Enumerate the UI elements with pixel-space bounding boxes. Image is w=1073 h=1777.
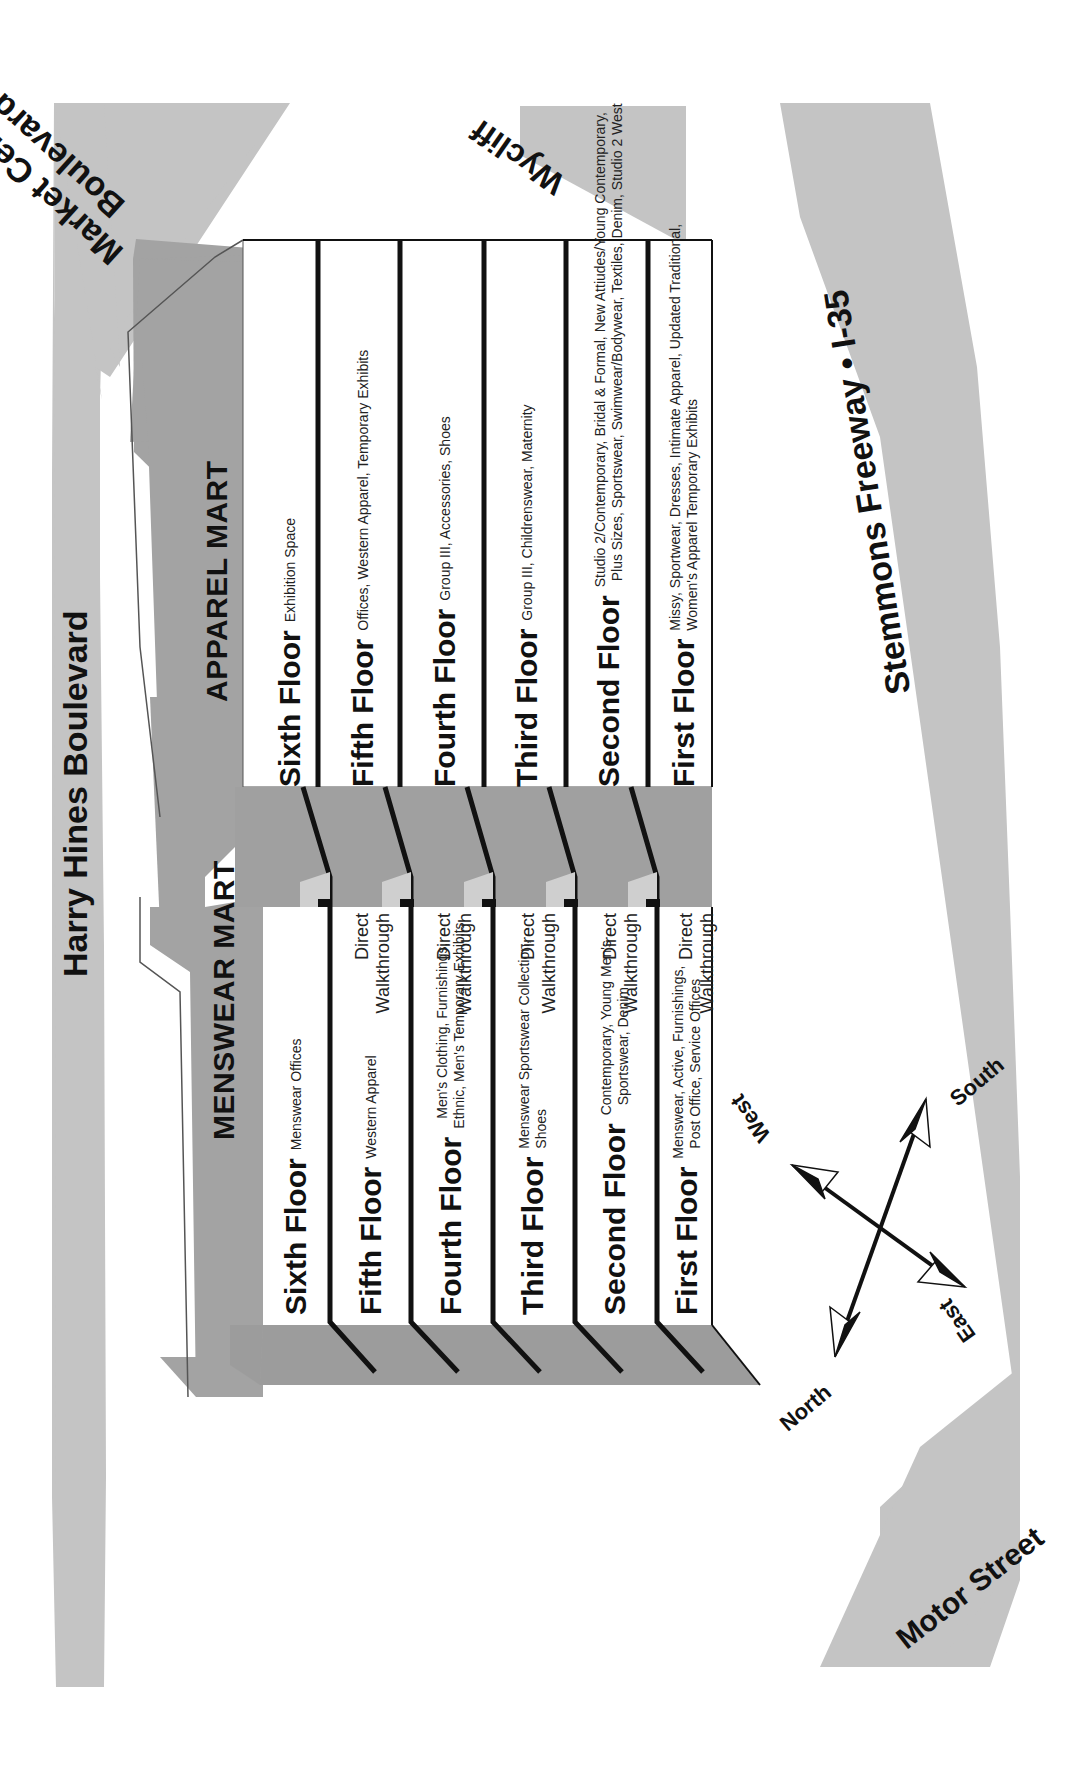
floor-name: First Floor — [670, 1167, 704, 1315]
menswear-floor-6[interactable]: Sixth Floor Menswear Offices — [268, 1039, 324, 1315]
floor-desc-line: Women's Apparel Temporary Exhibits — [684, 224, 701, 631]
walkthrough-label-1: Direct Walkthrough — [676, 913, 718, 1017]
floor-desc: Group III, Accessories, Shoes — [437, 416, 454, 600]
walkthrough-label-4: Direct Walkthrough — [434, 913, 476, 1017]
floor-name: Fifth Floor — [354, 1167, 388, 1315]
floor-desc: Group III, Childrenswear, Maternity — [519, 404, 536, 620]
floor-name: Fourth Floor — [428, 609, 462, 787]
walkthrough-label-5: Direct Walkthrough — [352, 913, 394, 1017]
walkthrough-line1: Direct — [676, 913, 697, 1017]
road-label-harry-hines: Harry Hines Boulevard — [56, 610, 95, 977]
walkthrough-line2: Walkthrough — [621, 913, 642, 1017]
apparel-floor-3[interactable]: Third Floor Group III, Childrenswear, Ma… — [494, 404, 560, 787]
floor-desc: Western Apparel — [363, 1055, 380, 1158]
floor-desc: Menswear Offices — [288, 1039, 305, 1151]
floor-desc: Studio 2/Contemporary, Bridal & Formal, … — [592, 103, 626, 587]
apparel-floor-5[interactable]: Fifth Floor Offices, Western Apparel, Te… — [330, 350, 396, 787]
floor-desc-line: Missy, Sportwear, Dresses, Intimate Appa… — [667, 224, 684, 631]
walkthrough-line2: Walkthrough — [539, 913, 560, 1017]
mart-directory-map: Harry Hines Boulevard Market Center Boul… — [0, 0, 1073, 1777]
walkthrough-line1: Direct — [600, 913, 621, 1017]
floor-name: Third Floor — [516, 1157, 550, 1315]
floor-name: Second Floor — [592, 595, 626, 787]
apparel-floor-4[interactable]: Fourth Floor Group III, Accessories, Sho… — [412, 416, 478, 787]
floor-name: Second Floor — [598, 1123, 632, 1315]
floor-name: Fifth Floor — [346, 639, 380, 787]
floor-name: Third Floor — [510, 629, 544, 787]
building-title-menswear-mart: MENSWEAR MART — [207, 860, 241, 1140]
road-stemmons — [780, 103, 1020, 1432]
floor-desc: Offices, Western Apparel, Temporary Exhi… — [355, 350, 372, 631]
floor-desc: Exhibition Space — [282, 518, 299, 622]
walkthrough-label-2: Direct Walkthrough — [600, 913, 642, 1017]
walkthrough-line2: Walkthrough — [455, 913, 476, 1017]
apparel-floor-2[interactable]: Second Floor Studio 2/Contemporary, Brid… — [576, 103, 642, 787]
floor-name: Sixth Floor — [273, 630, 307, 787]
menswear-floor-1[interactable]: First Floor Menswear, Active, Furnishing… — [662, 966, 712, 1315]
walkthrough-line1: Direct — [434, 913, 455, 1017]
floor-desc: Missy, Sportwear, Dresses, Intimate Appa… — [667, 224, 701, 631]
map-graphics — [0, 0, 1073, 1777]
floor-desc-line: Plus Sizes, Sportswear, Swimwear/Bodywea… — [609, 103, 626, 587]
floor-name: First Floor — [667, 639, 701, 787]
apparel-floor-6[interactable]: Sixth Floor Exhibition Space — [262, 518, 318, 787]
apparel-floor-1[interactable]: First Floor Missy, Sportwear, Dresses, I… — [656, 224, 712, 787]
walkthrough-label-3: Direct Walkthrough — [518, 913, 560, 1017]
building-title-apparel-mart: APPAREL MART — [200, 460, 234, 702]
walkthrough-line1: Direct — [352, 913, 373, 1017]
walkthrough-line1: Direct — [518, 913, 539, 1017]
floor-desc-line: Studio 2/Contemporary, Bridal & Formal, … — [592, 103, 609, 587]
floor-name: Fourth Floor — [434, 1137, 468, 1315]
floor-name: Sixth Floor — [279, 1158, 313, 1315]
walkthrough-line2: Walkthrough — [697, 913, 718, 1017]
menswear-floor-5[interactable]: Fifth Floor Western Apparel — [338, 1055, 404, 1315]
walkthrough-line2: Walkthrough — [373, 913, 394, 1017]
